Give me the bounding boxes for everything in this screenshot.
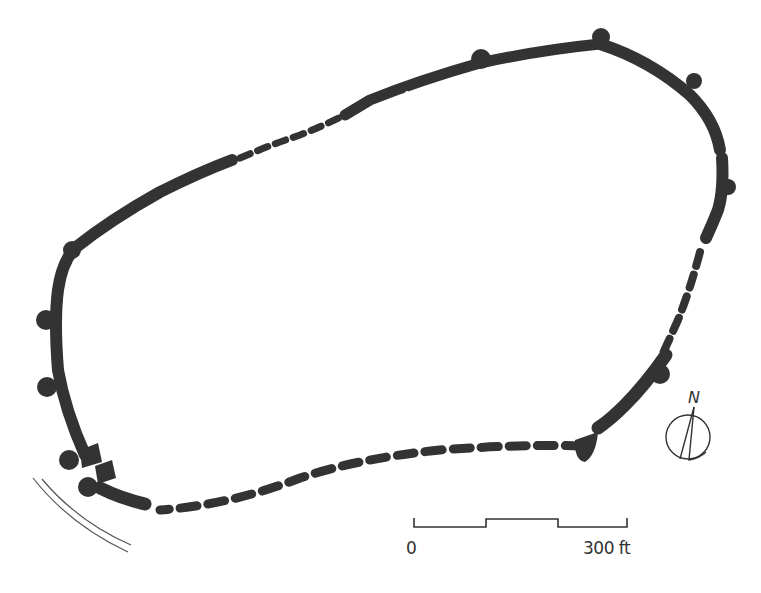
gate-tower-south: [78, 477, 98, 497]
tower-north-1: [471, 49, 491, 69]
south-wall-dashed: [160, 446, 582, 511]
tower-northwest: [63, 241, 81, 259]
tower-south-corner: [575, 432, 598, 462]
tower-northeast: [686, 73, 702, 89]
tower-southeast: [650, 364, 670, 384]
scale-bar: [414, 518, 627, 527]
tower-east: [720, 179, 736, 195]
scale-start-label: 0: [406, 538, 416, 558]
east-wall-solid: [706, 158, 723, 238]
southwest-wall-solid: [100, 488, 145, 504]
tower-west-2: [37, 377, 57, 397]
tower-ne-corner: [592, 28, 610, 46]
north-arrow: [666, 407, 710, 460]
gate-tower-north: [59, 450, 79, 470]
west-wall-solid: [56, 248, 85, 455]
wall-marker: [405, 91, 409, 95]
northwest-wall-dashed: [240, 115, 345, 158]
site-plan: [0, 0, 761, 593]
scale-end-label: 300 ft: [583, 538, 630, 558]
northeast-wall-solid: [600, 44, 720, 150]
northwest-wall-solid: [75, 160, 232, 248]
east-wall-dashed: [660, 252, 700, 360]
gatehouse-south-block: [95, 460, 116, 484]
north-label: N: [688, 388, 700, 407]
tower-west-1: [36, 310, 56, 330]
